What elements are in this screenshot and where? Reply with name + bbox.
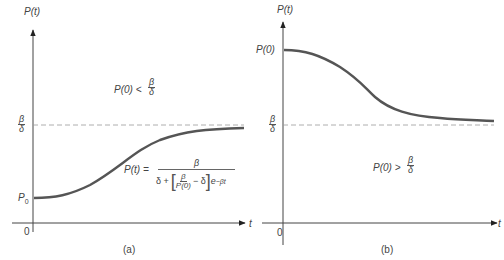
diagram-canvas (0, 0, 504, 260)
x-axis-label-b: t (498, 218, 501, 229)
caption-a: (a) (123, 244, 135, 255)
formula-numerator: β (158, 158, 235, 168)
formula-fraction-bar (158, 169, 235, 170)
formula-exponent: −βt (216, 178, 226, 185)
eq-den-a: δ (19, 125, 24, 134)
cond-den-a: δ (149, 88, 154, 97)
p0-label-b: P(0) (256, 44, 275, 55)
equilibrium-label-b: β δ (269, 115, 276, 134)
formula-inner-minus: − δ (193, 176, 206, 186)
condition-label-a: P(0) < (114, 84, 142, 95)
formula-inner-frac: β P(0) (176, 173, 191, 190)
p0-label-a: P0 (18, 192, 29, 205)
condition-frac-b: β δ (407, 156, 414, 175)
origin-label-a: 0 (24, 226, 30, 237)
condition-frac-a: β δ (148, 78, 155, 97)
formula-lhs: P(t) = (124, 164, 149, 175)
origin-label-b: 0 (277, 227, 283, 238)
condition-lhs-a: P(0) < (114, 84, 142, 95)
condition-label-b: P(0) > (373, 162, 401, 173)
x-axis-label-a: t (249, 218, 252, 229)
inner-den: P(0) (176, 182, 191, 190)
panel-b-axes (262, 22, 497, 245)
formula-denominator: δ + [ β P(0) − δ ] e −βt (156, 172, 226, 190)
decay-curve-b (284, 50, 494, 121)
eq-den-b: δ (270, 125, 275, 134)
y-axis-label-a: P(t) (24, 6, 40, 17)
cond-den-b: δ (408, 166, 413, 175)
y-axis-label-b: P(t) (277, 4, 293, 15)
panel-a-axes (12, 30, 245, 232)
p0-symbol: P (18, 192, 25, 203)
p0-subscript: 0 (25, 198, 29, 205)
formula-den-prefix: δ + (156, 176, 169, 186)
equilibrium-label-a: β δ (18, 115, 25, 134)
condition-lhs-b: P(0) > (373, 162, 401, 173)
caption-b: (b) (381, 244, 393, 255)
